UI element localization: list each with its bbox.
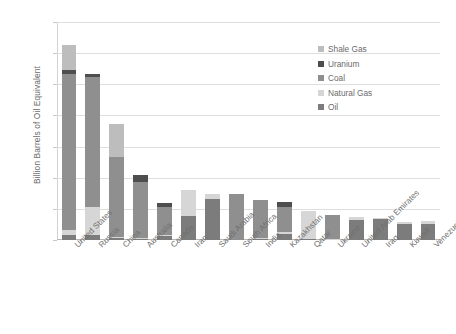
bar-segment-uranium <box>157 203 172 208</box>
legend-swatch-icon <box>318 104 324 110</box>
x-axis-label: Iraq <box>384 243 390 249</box>
x-axis-label: Kuwait <box>408 243 414 249</box>
bar-segment-natural-gas <box>397 222 412 224</box>
y-tick-mark <box>53 22 57 23</box>
x-axis-label: India <box>264 243 270 249</box>
bar-segment-natural-gas <box>62 230 77 235</box>
legend-swatch-icon <box>318 46 324 52</box>
x-axis-label: United States <box>73 243 79 249</box>
bar-segment-natural-gas <box>421 221 436 224</box>
x-axis-label: Ukraine <box>336 243 342 249</box>
legend-swatch-icon <box>318 61 324 67</box>
x-axis-label: Iran <box>193 243 199 249</box>
x-axis-label: Saudi Arabia <box>217 243 223 249</box>
bar-segment-uranium <box>133 175 148 182</box>
legend-swatch-icon <box>318 90 324 96</box>
legend-label: Coal <box>328 74 345 82</box>
bar-segment-uranium <box>62 70 77 75</box>
bar-segment-shale-gas <box>62 45 77 70</box>
bar-segment-uranium <box>277 202 292 207</box>
bar-saudi-arabia <box>205 194 220 240</box>
legend-label: Uranium <box>328 60 359 68</box>
bar-segment-natural-gas <box>205 194 220 199</box>
y-tick-mark <box>53 115 57 116</box>
legend-label: Oil <box>328 103 338 111</box>
legend-item: Oil <box>318 100 408 115</box>
legend-item: Shale Gas <box>318 42 408 57</box>
bar-segment-natural-gas <box>349 217 364 219</box>
y-tick-mark <box>53 178 57 179</box>
gridline <box>57 115 440 116</box>
y-tick-mark <box>53 84 57 85</box>
y-tick-mark <box>53 209 57 210</box>
bar-segment-coal <box>109 157 124 236</box>
y-axis-line <box>57 22 58 240</box>
bar-united-states <box>62 45 77 240</box>
x-axis-label: China <box>121 243 127 249</box>
legend-swatch-icon <box>318 75 324 81</box>
y-tick-mark <box>53 53 57 54</box>
x-axis-label: Kazakhstan <box>288 243 294 249</box>
y-tick-mark <box>53 240 57 241</box>
legend-item: Natural Gas <box>318 86 408 101</box>
y-tick-mark <box>53 147 57 148</box>
bar-china <box>109 124 124 240</box>
x-axis-label: Australia <box>145 243 151 249</box>
x-axis-label: Qatar <box>312 243 318 249</box>
bar-segment-oil <box>62 235 77 240</box>
x-axis-label: Canada <box>169 243 175 249</box>
legend-item: Coal <box>318 71 408 86</box>
gridline <box>57 22 440 23</box>
bar-segment-coal <box>62 74 77 230</box>
x-axis-label: United Arab Emirates <box>360 243 366 249</box>
chart-legend: Shale GasUraniumCoalNatural GasOil <box>318 42 408 115</box>
energy-reserves-bar-chart: Billion Barrels of Oil Equivalent 020040… <box>0 0 456 334</box>
x-axis-label: Venezuela <box>432 243 438 249</box>
bar-segment-oil <box>205 199 220 240</box>
bar-segment-coal <box>85 77 100 207</box>
y-axis-title: Billion Barrels of Oil Equivalent <box>32 25 42 225</box>
x-axis-label: Russia <box>97 243 103 249</box>
bar-russia <box>85 74 100 240</box>
legend-label: Shale Gas <box>328 45 367 53</box>
bar-segment-coal <box>277 207 292 233</box>
legend-item: Uranium <box>318 57 408 72</box>
legend-label: Natural Gas <box>328 89 372 97</box>
bar-segment-natural-gas <box>181 190 196 216</box>
bar-segment-shale-gas <box>109 124 124 157</box>
x-axis-label: South Africa <box>241 243 247 249</box>
x-axis-labels: United StatesRussiaChinaAustraliaCanadaI… <box>57 243 440 333</box>
bar-segment-uranium <box>85 74 100 77</box>
